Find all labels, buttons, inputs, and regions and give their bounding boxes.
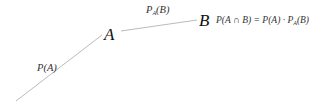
- node-b: B: [199, 12, 209, 29]
- edge-root-to-a: [16, 35, 102, 101]
- edge-label-pa-b: PA(B): [146, 5, 170, 16]
- node-a: A: [104, 26, 114, 43]
- joint-probability-formula: P(A ∩ B) = P(A) · PA(B): [216, 16, 309, 26]
- edge-label-p-a: P(A): [37, 63, 57, 74]
- edge-a-to-b: [121, 20, 197, 31]
